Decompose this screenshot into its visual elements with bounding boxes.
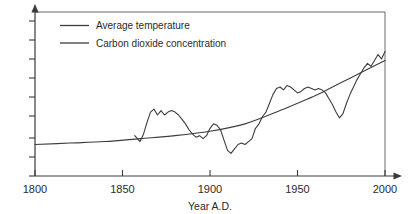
y-axis-ticks [29, 21, 35, 176]
series-line-carbon-dioxide [35, 60, 385, 144]
x-tick-label: 1950 [285, 183, 309, 195]
x-tick-label: 1850 [110, 183, 134, 195]
x-tick-label: 2000 [373, 183, 397, 195]
series-line-average-temperature [135, 52, 385, 154]
x-axis-title: Year A.D. [188, 200, 232, 212]
x-axis-tick-labels: 1800 1850 1900 1950 2000 [23, 183, 397, 195]
y-axis-arrowhead [31, 4, 38, 13]
legend-label-average-temperature: Average temperature [96, 20, 190, 31]
x-axis-arrowhead [394, 173, 403, 180]
legend-label-carbon-dioxide: Carbon dioxide concentration [96, 38, 226, 49]
chart-figure: 1800 1850 1900 1950 2000 Year A.D. Avera… [0, 0, 408, 214]
x-tick-label: 1800 [23, 183, 47, 195]
chart-plot-area: 1800 1850 1900 1950 2000 Year A.D. Avera… [0, 0, 408, 214]
x-axis-ticks [35, 170, 385, 176]
chart-legend: Average temperature Carbon dioxide conce… [60, 20, 226, 49]
x-tick-label: 1900 [198, 183, 222, 195]
